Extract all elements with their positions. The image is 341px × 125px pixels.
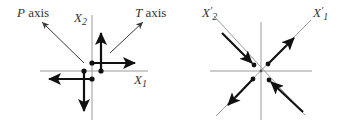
compression-arrow-nw xyxy=(222,33,252,63)
x1-subscript: 1 xyxy=(142,78,147,89)
application-point-dot xyxy=(266,62,271,67)
application-point-dot xyxy=(89,60,94,65)
tension-arrow-ne xyxy=(269,38,294,63)
tension-arrow-sw xyxy=(228,79,253,105)
x2p-subscript: 2 xyxy=(212,11,217,22)
left-diagram: P axis T axis X2 X1 xyxy=(16,5,166,120)
application-point-dot xyxy=(251,77,256,82)
t-axis-suffix: axis xyxy=(142,5,166,20)
right-diagram: X′2 X′1 xyxy=(201,5,328,120)
origin-dot xyxy=(260,70,263,73)
p-axis-arrow xyxy=(42,22,84,63)
x2-subscript: 2 xyxy=(82,16,87,27)
compression-arrow-se xyxy=(271,82,303,112)
x2-prime-axis-label: X′2 xyxy=(201,5,217,22)
t-axis-arrow xyxy=(110,22,143,53)
application-point-dot xyxy=(252,63,257,68)
p-axis-letter: P xyxy=(16,5,25,20)
application-point-dot xyxy=(267,78,272,83)
application-point-dot xyxy=(98,68,103,73)
double-couple-diagram: P axis T axis X2 X1 xyxy=(0,0,341,125)
x1-prime-axis-label: X′1 xyxy=(312,5,328,22)
x1p-subscript: 1 xyxy=(323,11,328,22)
p-axis-suffix: axis xyxy=(25,5,49,20)
application-point-dot xyxy=(89,76,94,81)
p-axis-label: P axis xyxy=(16,5,49,20)
x2-axis-label: X2 xyxy=(73,10,87,27)
application-point-dot xyxy=(81,68,86,73)
t-axis-label: T axis xyxy=(135,5,166,20)
x1-axis-label: X1 xyxy=(133,72,147,89)
